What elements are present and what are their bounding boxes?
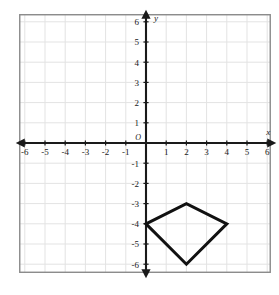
y-axis-tick-label: 3 — [135, 78, 140, 88]
coordinate-plane-svg: -6-5-4-3-2-1123456 654321-1-2-3-4-5-6 xy… — [0, 0, 279, 295]
x-axis-tick-label: 3 — [204, 147, 209, 157]
y-axis-tick-label: 5 — [135, 37, 140, 47]
x-axis-name-label: x — [265, 127, 270, 137]
x-axis-tick-label: -2 — [102, 147, 110, 157]
y-axis-tick-label: -1 — [132, 159, 140, 169]
x-axis-tick-label: -4 — [61, 147, 69, 157]
y-axis-tick-label: 4 — [135, 58, 140, 68]
x-axis-tick-label: -5 — [41, 147, 49, 157]
x-axis-tick-label: 1 — [164, 147, 169, 157]
y-axis-name-label: y — [153, 13, 158, 23]
x-axis-tick-label: -1 — [122, 147, 130, 157]
y-axis-tick-label: 2 — [135, 98, 140, 108]
x-axis-tick-label: -6 — [21, 147, 29, 157]
x-axis-tick-label: 4 — [225, 147, 230, 157]
y-axis-tick-label: -4 — [132, 219, 140, 229]
y-axis-tick-label: 1 — [135, 118, 140, 128]
x-axis-tick-label: 2 — [184, 147, 189, 157]
coordinate-plane-figure: -6-5-4-3-2-1123456 654321-1-2-3-4-5-6 xy… — [0, 0, 279, 295]
x-axis-tick-label: 5 — [245, 147, 250, 157]
x-axis-tick-label: -3 — [82, 147, 90, 157]
y-axis-tick-label: -3 — [132, 199, 140, 209]
x-axis-tick-label: 6 — [265, 147, 270, 157]
y-axis-tick-label: 6 — [135, 17, 140, 27]
origin-label: O — [135, 133, 141, 142]
y-axis-tick-label: -5 — [132, 239, 140, 249]
y-axis-tick-label: -2 — [132, 179, 140, 189]
y-axis-tick-label: -6 — [132, 260, 140, 270]
